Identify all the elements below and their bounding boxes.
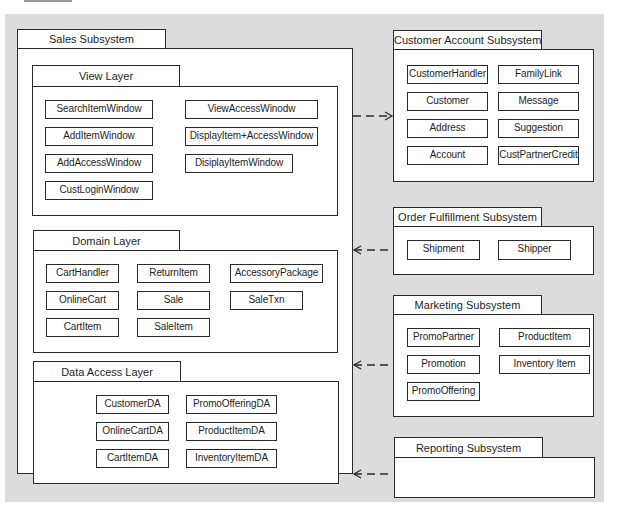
class-box[interactable]: AddItemWindow (45, 127, 153, 146)
class-box[interactable]: Account (407, 146, 488, 165)
class-box[interactable]: CustomerHandler (407, 65, 488, 84)
dependency-arrow-reporting-to-sales (352, 468, 394, 480)
domain-layer-tab: Domain Layer (33, 230, 180, 251)
class-box[interactable]: AccessoryPackage (230, 264, 323, 283)
view-layer-tab: View Layer (32, 65, 180, 87)
customer-account-subsystem-tab: Customer Account Subsystem (393, 30, 542, 50)
class-box[interactable]: CustLoginWindow (45, 181, 153, 200)
class-box[interactable]: SaleItem (137, 318, 210, 337)
class-box[interactable]: CustPartnerCredit (498, 146, 579, 165)
class-box[interactable]: OnlineCartDA (96, 422, 169, 441)
dependency-arrow-order-fulfillment-to-sales (352, 244, 394, 256)
sales-subsystem-tab: Sales Subsystem (17, 29, 166, 49)
class-box[interactable]: InventoryItemDA (186, 449, 277, 468)
class-box[interactable]: CartHandler (46, 264, 119, 283)
class-box[interactable]: Address (407, 119, 488, 138)
class-box[interactable]: Shipment (407, 240, 480, 260)
class-box[interactable]: CartItem (46, 318, 119, 337)
class-box[interactable]: Promotion (407, 355, 480, 374)
class-box[interactable]: ViewAccessWinodw (185, 100, 318, 119)
class-box[interactable]: Sale (137, 291, 210, 310)
class-box[interactable]: Suggestion (498, 119, 579, 138)
class-box[interactable]: ProductItemDA (186, 422, 277, 441)
dependency-arrow-sales-to-customer-account (352, 110, 394, 122)
class-box[interactable]: PromoOffering (407, 382, 480, 401)
dependency-arrow-marketing-to-sales (352, 359, 394, 371)
class-box[interactable]: PromoOfferingDA (186, 395, 277, 414)
class-box[interactable]: Message (498, 92, 579, 111)
class-box[interactable]: FamilyLink (498, 65, 579, 84)
class-box[interactable]: PromoPartner (407, 328, 480, 347)
class-box[interactable]: CustomerDA (96, 395, 169, 414)
class-box[interactable]: SaleTxn (230, 291, 303, 310)
order-fulfillment-subsystem-tab: Order Fulfillment Subsystem (393, 207, 542, 227)
class-box[interactable]: DisiplayItemWindow (185, 154, 293, 173)
class-box[interactable]: Inventory Item (499, 355, 590, 374)
reporting-subsystem-package (394, 457, 595, 498)
class-box[interactable]: Customer (407, 92, 488, 111)
class-box[interactable]: OnlineCart (46, 291, 119, 310)
class-box[interactable]: DisplayItem+AccessWindow (185, 127, 318, 146)
class-box[interactable]: ReturnItem (137, 264, 210, 283)
class-box[interactable]: SearchItemWindow (45, 100, 153, 119)
reporting-subsystem-tab: Reporting Subsystem (394, 437, 543, 458)
class-box[interactable]: CartItemDA (96, 449, 169, 468)
class-box[interactable]: Shipper (498, 240, 571, 260)
page-marker (24, 0, 72, 2)
class-box[interactable]: ProductItem (499, 328, 590, 347)
marketing-subsystem-tab: Marketing Subsystem (393, 295, 542, 315)
data-access-layer-tab: Data Access Layer (33, 361, 181, 382)
class-box[interactable]: AddAccessWindow (45, 154, 153, 173)
